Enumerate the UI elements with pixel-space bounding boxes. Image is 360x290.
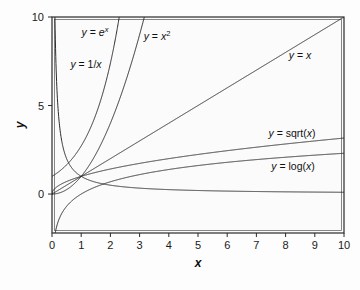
figure-container: 012345678910 0510 y = exy = x2y = 1/xy =… — [0, 0, 360, 290]
x-tick-label: 5 — [195, 239, 201, 251]
x-tick-label: 10 — [338, 239, 350, 251]
x-tick-label: 6 — [224, 239, 230, 251]
x-tick-label: 4 — [166, 239, 172, 251]
curve-label-exp: y = ex — [81, 25, 109, 39]
y-axis-ticks: 0510 — [32, 11, 52, 200]
x-tick-label: 2 — [107, 239, 113, 251]
x-axis-ticks: 012345678910 — [49, 233, 350, 251]
y-axis-title: y — [13, 120, 27, 129]
function-plot: 012345678910 0510 y = exy = x2y = 1/xy =… — [0, 0, 360, 290]
x-tick-label: 3 — [137, 239, 143, 251]
curve-label-sqrt: y = sqrt(x) — [268, 127, 316, 139]
y-tick-label: 5 — [38, 100, 44, 112]
x-tick-label: 1 — [78, 239, 84, 251]
y-tick-label: 0 — [38, 188, 44, 200]
y-tick-label: 10 — [32, 11, 44, 23]
x-tick-label: 8 — [283, 239, 289, 251]
x-tick-label: 7 — [253, 239, 259, 251]
x-axis-title: x — [194, 256, 203, 270]
curve-label-log: y = log(x) — [270, 160, 314, 172]
curve-label-reciprocal: y = 1/x — [69, 58, 102, 70]
x-tick-label: 9 — [312, 239, 318, 251]
x-tick-label: 0 — [49, 239, 55, 251]
curve-label-linear: y = x — [288, 49, 312, 61]
